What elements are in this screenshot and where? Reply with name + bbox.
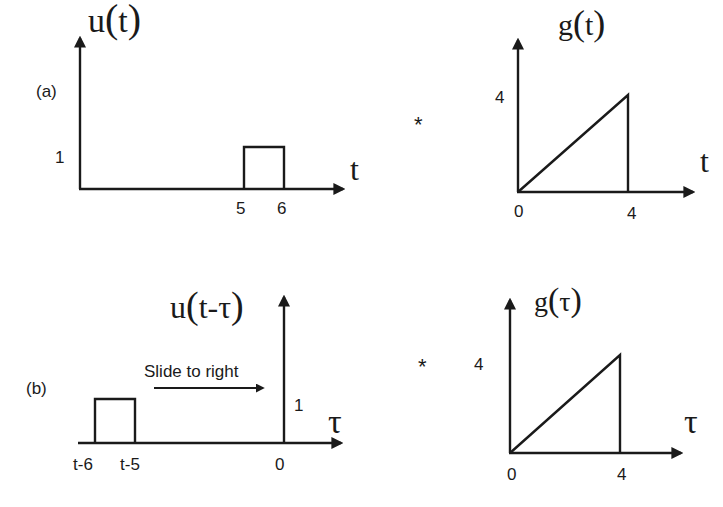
plot-g-t: g(t) 4 t 0 4 (495, 3, 709, 223)
x-tick-0: 0 (275, 455, 284, 474)
x-tick-4: 4 (617, 465, 626, 484)
x-tick-t-5: t-5 (120, 455, 140, 474)
plot-u-t-minus-tau: u(t-τ) Slide to right 1 τ t-6 t-5 0 (73, 284, 342, 474)
panel-a-label: (a) (36, 82, 57, 101)
plot-title: g(τ) (534, 281, 582, 319)
x-tick-4: 4 (627, 204, 636, 223)
y-tick-4: 4 (495, 88, 504, 107)
convolution-operator: * (414, 112, 423, 137)
panel-b-label: (b) (26, 379, 47, 398)
convolution-operator: * (418, 354, 427, 379)
x-tick-t-6: t-6 (73, 455, 93, 474)
plot-title: u(t) (88, 0, 141, 41)
rect-pulse (244, 147, 284, 189)
convolution-diagram: (a) u(t) 1 t 5 6 * g(t) 4 t 0 4 (0, 0, 723, 507)
x-tick-5: 5 (236, 199, 245, 218)
panel-b: (b) u(t-τ) Slide to right 1 τ t-6 t-5 0 … (26, 281, 698, 484)
x-axis-label: τ (328, 403, 342, 440)
x-tick-6: 6 (277, 199, 286, 218)
y-tick-4: 4 (474, 355, 483, 374)
x-axis-label: τ (684, 403, 698, 440)
rect-pulse-flipped (95, 399, 135, 443)
y-tick-1: 1 (294, 396, 303, 415)
plot-g-tau: g(τ) 4 τ 0 4 (474, 281, 698, 484)
plot-title: u(t-τ) (170, 284, 244, 327)
ramp-triangle (510, 355, 620, 453)
plot-title: g(t) (558, 3, 605, 43)
y-tick-1: 1 (55, 148, 64, 167)
x-tick-0: 0 (514, 202, 523, 221)
plot-u-t: u(t) 1 t 5 6 (55, 0, 359, 218)
x-axis-label: t (700, 143, 709, 179)
panel-a: (a) u(t) 1 t 5 6 * g(t) 4 t 0 4 (36, 0, 709, 223)
x-tick-0: 0 (507, 465, 516, 484)
x-axis-label: t (350, 151, 359, 187)
ramp-triangle (518, 95, 628, 192)
slide-annotation: Slide to right (144, 362, 239, 381)
